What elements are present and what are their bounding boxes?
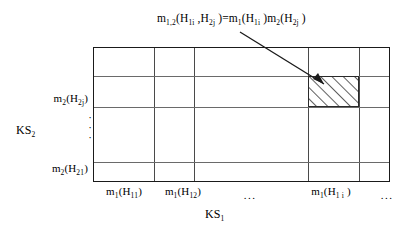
diagonal-hatch-icon (308, 76, 359, 107)
column-label-ellipsis-middle: ... (230, 190, 270, 201)
formula-lhs-function-subscript: 1,2 (166, 18, 176, 27)
product-formula: m1,2(H1i,H2j)=m1(H1i)m2(H2j) (157, 13, 306, 26)
x-axis-title: KS1 (205, 208, 225, 222)
y-axis-title-symbol: KS (16, 123, 32, 137)
column-label-1-arg-subscript: 11 (131, 191, 139, 200)
column-label-2: m1(H12) (155, 186, 211, 199)
formula-lhs-arg1-subscript: 1i (188, 18, 194, 27)
formula-rhs-term1-function: m1 (229, 12, 242, 24)
column-label-i-arg-subscript: 1 i (336, 191, 344, 200)
highlighted-cell[interactable] (308, 76, 359, 107)
row-label-bottom: m2(H21) (20, 163, 88, 176)
row-label-top-arg: H2j (70, 92, 84, 104)
x-axis-title-symbol: KS (205, 207, 221, 221)
formula-rhs-term1-arg-subscript: 1i (254, 18, 260, 27)
formula-rhs-term2-function: m2 (267, 12, 280, 24)
formula-rhs-term1-arg: H1i (246, 12, 261, 24)
grid-horizontal-line-3 (94, 162, 389, 163)
row-label-bottom-close-paren: ) (84, 162, 88, 174)
row-label-top: m2(H2j) (20, 93, 88, 106)
matrix-grid (93, 47, 390, 182)
x-axis-title-subscript: 1 (221, 214, 225, 223)
y-axis-ellipsis-dot-3: · (86, 132, 94, 142)
column-label-i: m1(H1 i) (300, 186, 362, 199)
column-label-ellipsis-end: ... (372, 190, 402, 201)
column-label-1-function: m1 (106, 185, 119, 197)
y-axis-title-subscript: 2 (32, 130, 36, 139)
row-label-bottom-arg: H21 (68, 162, 84, 174)
formula-lhs-arg2: H2j (201, 12, 216, 24)
formula-equals-sign: = (222, 12, 229, 24)
row-label-top-function: m2 (54, 92, 67, 104)
column-label-2-arg: H12 (181, 185, 197, 197)
matrix-diagram-figure: m1,2(H1i,H2j)=m1(H1i)m2(H2j) (0, 0, 410, 230)
column-label-1-arg: H11 (122, 185, 138, 197)
column-label-i-close-paren: ) (347, 185, 351, 197)
formula-rhs-term2-arg: H2j (284, 12, 299, 24)
formula-lhs-arg1: H1i (180, 12, 195, 24)
y-axis-ellipsis: · · · (86, 112, 94, 142)
grid-horizontal-line-2 (94, 107, 389, 108)
formula-rhs-term2-arg-subscript: 2j (293, 18, 299, 27)
y-axis-title: KS2 (16, 124, 36, 138)
formula-lhs-arg2-subscript: 2j (209, 18, 215, 27)
column-label-1: m1(H11) (96, 186, 152, 199)
column-label-1-close-paren: ) (138, 185, 142, 197)
row-label-bottom-function: m2 (52, 162, 65, 174)
row-label-top-close-paren: ) (84, 92, 88, 104)
column-label-2-close-paren: ) (197, 185, 201, 197)
column-label-i-arg: H1 i (328, 185, 344, 197)
column-label-i-function: m1 (311, 185, 324, 197)
formula-rhs-term2-close-paren: ) (302, 12, 306, 24)
formula-lhs-function: m1,2 (157, 12, 176, 24)
column-label-2-function: m1 (165, 185, 178, 197)
